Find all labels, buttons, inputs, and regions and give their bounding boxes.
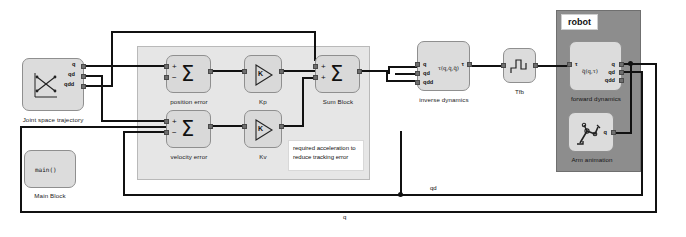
wire-tfb-to-fwd [536,65,569,67]
velocity-error-input-port-plus[interactable] [164,119,169,124]
position-error-caption: position error [155,98,223,105]
inverse-dynamics-block[interactable]: q qd qdd τ(q,q̇,q̈) τ [417,41,470,91]
kp-output-port[interactable] [279,69,284,74]
wire-kp-to-sum [282,70,315,72]
sum-block[interactable]: + + Σ [315,55,360,93]
wire-fwdq-seg3 [20,211,656,213]
wire-fwdqd-seg1 [622,71,643,73]
kv-caption: Kv [240,153,286,160]
forward-dynamics-input-port-tau[interactable] [567,62,572,67]
robot-subsystem-label: robot [561,14,598,30]
kv-output-port[interactable] [279,124,284,129]
trajectory-port-label-qd: qd [68,71,75,77]
sum-sigma-icon: Σ [181,119,194,140]
forward-dynamics-label-q: q [612,61,615,67]
tfb-caption: Tfb [503,88,536,95]
trajectory-output-port-qdd[interactable] [81,84,86,89]
tracking-note-annotation: required acceleration to reduce tracking… [288,140,364,171]
wire-fwdqd-seg2 [641,71,643,196]
forward-dynamics-label-qdd: qdd [605,77,615,83]
wire-fwdq-seg5 [20,126,166,128]
sum-sigma-icon: Σ [181,64,194,85]
robot-arm-icon [574,119,602,147]
wire-invdyn-qd-seg [395,73,417,75]
kp-gain-text: K [258,70,263,77]
velocity-error-caption: velocity error [155,153,223,160]
position-error-input-port-minus[interactable] [164,75,169,80]
trajectory-crossing-icon [31,69,61,101]
forward-dynamics-label-qd: qd [608,69,615,75]
inverse-dynamics-input-port-qd[interactable] [415,71,420,76]
wire-kv-seg2 [302,77,304,127]
wire-fwdq-seg4 [20,126,22,212]
wire-qd-seg2 [101,75,103,122]
forward-dynamics-label-tau: τ [575,61,578,67]
block-diagram-canvas: robot qd q [0,0,686,237]
main-block-text: main() [35,166,57,173]
forward-dynamics-output-port-qd[interactable] [619,70,624,75]
wire-sum-seg3 [386,80,417,82]
wire-velerr-to-kv [211,125,244,127]
wire-qdd-seg1 [84,85,113,87]
wire-qd-seg3 [101,120,166,122]
wire-invdyn-q-seg2 [388,66,417,68]
tfb-block[interactable] [503,48,536,83]
velocity-error-input-port-minus[interactable] [164,130,169,135]
position-error-output-port[interactable] [208,69,213,74]
inverse-dynamics-input-port-qdd[interactable] [415,80,420,85]
position-error-sign-plus: + [172,63,177,71]
arm-animation-label-q: q [604,129,607,135]
velocity-error-output-port[interactable] [208,124,213,129]
kv-input-port[interactable] [242,124,247,129]
arm-animation-block[interactable]: q [568,112,614,152]
arm-animation-caption: Arm animation [561,156,623,163]
wire-sum-seg1 [360,70,388,72]
wire-fwdqd-seg4 [400,131,402,195]
wire-poserr-to-kp [211,70,244,72]
forward-dynamics-caption: forward dynamics [560,95,632,102]
trajectory-output-port-qd[interactable] [81,74,86,79]
signal-label-qd: qd [430,185,437,191]
forward-dynamics-block[interactable]: τ q̈(q,τ) q qd qdd [569,41,622,91]
inverse-dynamics-input-port-q[interactable] [415,62,420,67]
inverse-dynamics-label-qd: qd [423,70,430,76]
arm-animation-input-port-q[interactable] [611,130,616,135]
main-block[interactable]: main() [24,150,76,188]
forward-dynamics-output-port-q[interactable] [619,62,624,67]
velocity-error-block[interactable]: + − Σ [166,110,211,148]
inverse-dynamics-label-qdd: qdd [423,79,433,85]
wire-kv-seg1 [282,125,304,127]
position-error-block[interactable]: + − Σ [166,55,211,93]
trajectory-port-label-q: q [72,61,75,67]
junction-dot-qd [398,192,403,197]
sum-block-input-port-1[interactable] [313,64,318,69]
position-error-sign-minus: − [172,74,177,82]
sum-block-sign-1: + [321,63,326,71]
position-error-input-port-plus[interactable] [164,64,169,69]
wire-qdd-seg3 [111,31,316,33]
trajectory-output-port-q[interactable] [81,64,86,69]
kv-gain-text: K [258,125,263,132]
kp-gain-block[interactable]: K [244,55,282,93]
main-block-caption: Main Block [14,192,86,199]
inverse-dynamics-caption: inverse dynamics [406,96,482,103]
forward-dynamics-expression: q̈(q,τ) [582,68,598,74]
velocity-error-sign-plus: + [172,118,177,126]
forward-dynamics-output-port-qdd[interactable] [619,78,624,83]
tfb-output-port[interactable] [533,63,538,68]
kp-caption: Kp [240,98,286,105]
inverse-dynamics-label-q: q [423,61,426,67]
trajectory-caption: Joint space trajectory [6,116,100,123]
sum-block-input-port-2[interactable] [313,75,318,80]
sum-block-caption: Sum Block [305,98,371,105]
wire-arm-seg2 [614,132,632,134]
signal-label-q: q [343,214,346,220]
gain-triangle-icon [253,118,275,142]
sum-block-output-port[interactable] [357,69,362,74]
inverse-dynamics-output-port-tau[interactable] [467,62,472,67]
kv-gain-block[interactable]: K [244,110,282,148]
wire-q-to-position-error [84,65,166,67]
kp-input-port[interactable] [242,69,247,74]
wire-fwdqd-seg6 [123,131,125,194]
tfb-input-port[interactable] [501,63,506,68]
